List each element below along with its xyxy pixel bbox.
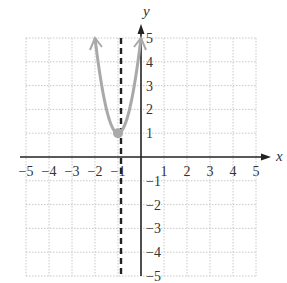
x-tick-label: −5 — [19, 164, 34, 179]
x-tick-label: −2 — [88, 164, 103, 179]
x-tick-label: −1 — [111, 164, 126, 179]
y-tick-label: −4 — [146, 245, 161, 260]
coordinate-plane: xy−5−4−3−2−11234554321−1−2−3−4−5 — [0, 0, 287, 283]
x-tick-label: 3 — [207, 164, 214, 179]
y-tick-label: 4 — [146, 55, 153, 70]
x-tick-label: −3 — [65, 164, 80, 179]
x-tick-label: 4 — [230, 164, 237, 179]
x-axis-label: x — [275, 148, 283, 164]
y-tick-label: −1 — [146, 174, 161, 189]
y-tick-label: 2 — [146, 102, 153, 117]
x-tick-label: 2 — [184, 164, 191, 179]
y-axis-label: y — [141, 3, 150, 19]
x-tick-label: 1 — [161, 164, 168, 179]
y-tick-label: 1 — [146, 126, 153, 141]
y-tick-label: 5 — [146, 31, 153, 46]
y-tick-label: −3 — [146, 221, 161, 236]
y-tick-label: −5 — [146, 269, 161, 283]
y-tick-label: −2 — [146, 198, 161, 213]
x-axis-arrow-icon — [261, 154, 271, 161]
y-axis-arrow-icon — [138, 24, 145, 34]
parabola-curve — [95, 38, 141, 133]
y-tick-label: 3 — [146, 79, 153, 94]
vertex-point — [113, 128, 123, 138]
x-tick-label: 5 — [253, 164, 260, 179]
x-tick-label: −4 — [42, 164, 57, 179]
